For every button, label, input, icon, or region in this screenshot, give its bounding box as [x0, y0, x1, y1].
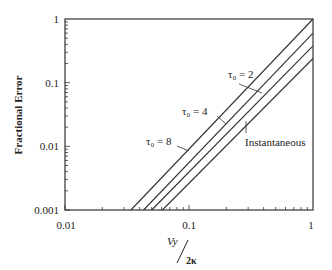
series-line-instantaneous: [162, 59, 313, 211]
label-tau4: τ₀ = 4: [182, 105, 208, 117]
series-line--0-4: [144, 33, 313, 210]
annotation-tau2: τ₀ = 2: [228, 68, 262, 93]
annotation-tau8: τ₀ = 8: [146, 135, 189, 151]
x-axis-title-denominator: 2κ: [186, 255, 197, 266]
series-lines: [131, 19, 313, 210]
y-tick-label-1: 1: [54, 13, 60, 25]
fractional-error-chart: 1 0.1 0.01 0.001 0.01 0.1 1 Fractional E…: [0, 0, 332, 270]
y-tick-label-0.001: 0.001: [34, 204, 59, 216]
annotation-instantaneous: Instantaneous: [245, 121, 305, 148]
leader-tau8: [177, 146, 189, 151]
label-tau2: τ₀ = 2: [228, 68, 253, 80]
x-tick-label-0.1: 0.1: [182, 219, 196, 231]
x-axis-title-numerator: Vy: [167, 235, 178, 247]
y-tick-label-0.01: 0.01: [40, 140, 59, 152]
label-tau8: τ₀ = 8: [146, 135, 172, 147]
x-tick-label-1: 1: [308, 219, 314, 231]
y-tick-label-0.1: 0.1: [45, 77, 59, 89]
x-tick-label-0.01: 0.01: [56, 219, 75, 231]
annotation-tau4: τ₀ = 4: [182, 105, 226, 124]
label-instantaneous: Instantaneous: [245, 136, 305, 148]
y-axis-title: Fractional Error: [12, 75, 24, 154]
series-line--0-8: [131, 19, 313, 210]
y-axis-ticks: [65, 22, 70, 210]
leader-tau4: [217, 116, 226, 124]
x-axis-ticks: [65, 205, 307, 210]
x-axis-title: Vy 2κ: [167, 235, 197, 266]
